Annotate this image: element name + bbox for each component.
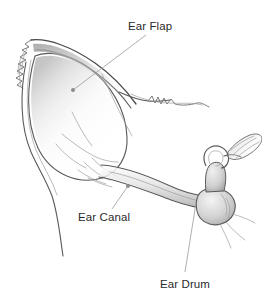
leader-dot-ear-canal [126,184,130,188]
leader-dot-ear-flap [71,88,75,92]
label-ear-flap: Ear Flap [128,20,172,32]
ear-drum-fan [228,134,262,159]
ear-drum-structure [196,134,262,248]
leader-line-ear-drum [185,203,196,272]
ear-flap-pinna [16,40,209,256]
label-ear-canal: Ear Canal [78,211,130,223]
ear-canal-tube [99,165,206,208]
label-ear-drum: Ear Drum [160,278,210,290]
leader-line-ear-canal [112,186,128,209]
ear-anatomy-figure: Ear Flap Ear Canal Ear Drum [0,0,262,299]
ear-canal-fill [100,165,205,207]
ear-drum-neck [205,162,225,192]
ear-anatomy-drawing: Ear Flap Ear Canal Ear Drum [0,0,262,299]
